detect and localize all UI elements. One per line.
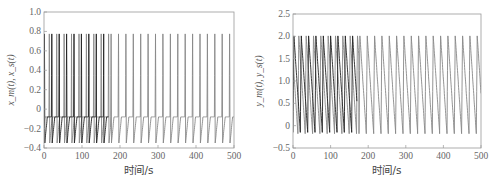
y-tick-label: 0	[36, 104, 41, 114]
y-tick-label: 0	[285, 121, 290, 131]
y-tick-label: 0.4	[29, 65, 41, 75]
y-tick-label: 0.2	[29, 85, 41, 95]
chart-figure: 0100200300400500−0.4−0.200.20.40.60.81.0…	[0, 0, 492, 180]
x-tick-label: 400	[189, 151, 204, 161]
series-line-1	[44, 34, 234, 143]
y-tick-label: 1.5	[278, 54, 290, 64]
plot-area	[44, 34, 234, 143]
x-tick-label: 300	[399, 151, 414, 161]
y-tick-label: −0.2	[24, 124, 41, 134]
y-axis-label: x_m(t), x_s(t)	[6, 54, 17, 106]
x-axis-label: 时间/s	[124, 164, 153, 176]
y-tick-label: 1.0	[278, 76, 290, 86]
chart-panel-1: 0100200300400500−0.4−0.200.20.40.60.81.0…	[6, 7, 241, 176]
plot-frame	[44, 12, 234, 148]
x-tick-label: 500	[227, 151, 242, 161]
y-tick-label: 2.5	[278, 9, 290, 19]
x-tick-label: 200	[113, 151, 128, 161]
chart-panel-2: 0100200300400500−0.500.51.01.52.02.5时间/s…	[254, 9, 488, 176]
y-tick-label: 0.8	[29, 26, 41, 36]
y-tick-label: 1.0	[29, 7, 41, 17]
x-tick-label: 0	[42, 151, 47, 161]
x-tick-label: 200	[361, 151, 376, 161]
x-tick-label: 100	[323, 151, 338, 161]
x-axis-label: 时间/s	[372, 164, 401, 176]
plot-area	[293, 36, 481, 134]
y-axis-label: y_m(t), y_s(t)	[254, 55, 265, 107]
x-tick-label: 300	[151, 151, 166, 161]
y-tick-label: 2.0	[278, 31, 290, 41]
x-tick-label: 0	[291, 151, 296, 161]
x-tick-label: 500	[474, 151, 489, 161]
y-tick-label: 0.6	[29, 46, 41, 56]
y-tick-label: −0.5	[273, 143, 290, 153]
y-tick-label: 0.5	[278, 98, 290, 108]
x-tick-label: 100	[75, 151, 90, 161]
series-line-0	[293, 36, 357, 132]
y-tick-label: −0.4	[24, 143, 41, 153]
plot-frame	[293, 14, 481, 148]
x-tick-label: 400	[436, 151, 451, 161]
series-line-0	[44, 34, 109, 143]
